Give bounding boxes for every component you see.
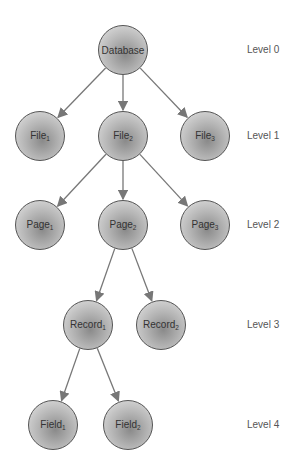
- node-label: Field2: [115, 419, 140, 431]
- edge-database-file1: [58, 68, 106, 117]
- node-subscript: 1: [50, 224, 54, 231]
- node-subscript: 3: [211, 135, 215, 142]
- node-page1: Page1: [15, 200, 65, 250]
- node-subscript: 1: [62, 424, 66, 431]
- node-subscript: 2: [133, 224, 137, 231]
- node-label: File2: [113, 130, 133, 142]
- node-subscript: 2: [175, 324, 179, 331]
- edge-database-file3: [140, 68, 187, 117]
- edge-file2-page3: [140, 154, 187, 205]
- node-database: Database: [98, 25, 148, 75]
- node-record1: Record1: [63, 300, 113, 350]
- level-label-0: Level 0: [247, 44, 279, 55]
- node-label: Record1: [70, 319, 106, 331]
- level-label-1: Level 1: [247, 130, 279, 141]
- node-field1: Field1: [28, 400, 78, 450]
- node-subscript: 2: [129, 135, 133, 142]
- level-label-3: Level 3: [247, 319, 279, 330]
- node-field2: Field2: [103, 400, 153, 450]
- node-label: File3: [195, 130, 215, 142]
- edge-page2-record1: [97, 249, 115, 301]
- edge-record1-field1: [62, 349, 80, 401]
- node-subscript: 3: [215, 224, 219, 231]
- node-subscript: 1: [102, 324, 106, 331]
- node-label: Field1: [40, 419, 65, 431]
- edge-page2-record2: [132, 248, 152, 300]
- edge-file2-page1: [58, 154, 106, 206]
- node-label: File1: [30, 130, 50, 142]
- node-page2: Page2: [98, 200, 148, 250]
- level-label-2: Level 2: [247, 219, 279, 230]
- node-label: Record2: [143, 319, 179, 331]
- level-label-4: Level 4: [247, 419, 279, 430]
- node-label: Page2: [110, 219, 137, 231]
- node-subscript: 1: [46, 135, 50, 142]
- node-file2: File2: [98, 111, 148, 161]
- node-subscript: 2: [137, 424, 141, 431]
- node-label: Page1: [27, 219, 54, 231]
- node-file3: File3: [180, 111, 230, 161]
- node-file1: File1: [15, 111, 65, 161]
- node-record2: Record2: [136, 300, 186, 350]
- node-label: Database: [102, 45, 145, 56]
- edge-record1-field2: [97, 348, 118, 401]
- node-page3: Page3: [180, 200, 230, 250]
- node-label: Page3: [192, 219, 219, 231]
